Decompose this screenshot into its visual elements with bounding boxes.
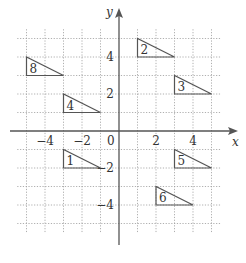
triangle-label: 8 xyxy=(30,62,38,76)
y-tick-label: 4 xyxy=(106,50,114,64)
x-tick-label: 4 xyxy=(189,134,197,148)
triangle-8: 8 xyxy=(27,57,64,76)
x-tick-label: −4 xyxy=(36,134,54,148)
x-axis-label: x xyxy=(232,135,239,149)
y-tick-label: 2 xyxy=(106,87,114,101)
triangle-label: 5 xyxy=(178,154,186,168)
origin-label: 0 xyxy=(107,134,115,148)
x-tick-label: 2 xyxy=(152,134,160,148)
triangle-label: 4 xyxy=(67,99,75,113)
triangle-1: 1 xyxy=(64,150,101,169)
triangle-label: 3 xyxy=(178,80,186,94)
triangle-label: 6 xyxy=(159,191,167,205)
x-tick-label: −2 xyxy=(73,134,91,148)
y-axis-label: y xyxy=(105,5,113,19)
coordinate-grid-diagram: x y 0 −4−22442−2−4 1234568 xyxy=(0,0,246,263)
y-tick-label: −4 xyxy=(96,198,114,212)
triangle-label: 1 xyxy=(67,154,75,168)
triangle-5: 5 xyxy=(175,150,212,169)
axes: x y 0 xyxy=(10,5,239,245)
triangle-label: 2 xyxy=(141,43,149,57)
